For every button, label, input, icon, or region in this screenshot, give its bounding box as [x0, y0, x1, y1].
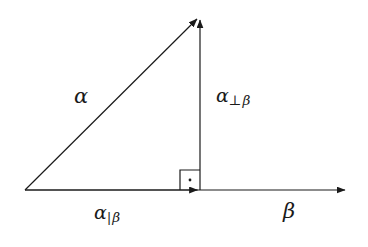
label-alpha-parallel-beta: α|β	[94, 203, 120, 225]
label-alpha-perp-beta: α⊥β	[216, 86, 251, 108]
label-alpha-perp-beta-sub-text: β	[243, 92, 251, 108]
vector-decomposition-figure: α α⊥β α|β β	[0, 0, 368, 247]
label-alpha-perp-beta-base: α	[216, 84, 229, 106]
label-alpha: α	[74, 86, 88, 107]
label-alpha-parallel-beta-sub-text: β	[112, 209, 120, 225]
label-alpha-perp-beta-subscript: ⊥β	[229, 92, 251, 108]
label-beta: β	[283, 201, 295, 222]
label-alpha-parallel-beta-subscript: |β	[107, 209, 121, 225]
perpendicular-icon: ⊥	[229, 92, 243, 108]
alpha-vector-line	[25, 19, 197, 190]
right-angle-dot-icon	[189, 179, 192, 182]
label-alpha-text: α	[74, 84, 88, 108]
diagram-canvas	[0, 0, 368, 247]
label-beta-text: β	[283, 199, 295, 223]
label-alpha-parallel-beta-base: α	[94, 201, 107, 223]
